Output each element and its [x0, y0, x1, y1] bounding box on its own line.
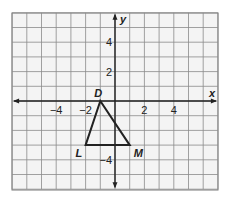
y-tick-label: −4 [99, 154, 112, 166]
y-tick-label: 4 [106, 36, 112, 48]
x-tick-label: −2 [79, 104, 92, 116]
vertex-label-D: D [94, 87, 102, 99]
x-tick-label: 2 [141, 104, 147, 116]
vertex-label-L: L [76, 147, 83, 159]
x-tick-label: 4 [171, 104, 177, 116]
x-axis-label: x [208, 87, 216, 99]
x-tick-label: −4 [50, 104, 63, 116]
y-tick-label: 2 [106, 66, 112, 78]
vertex-label-M: M [134, 147, 144, 159]
coordinate-plane: yx−4−22442−4DLM [0, 0, 225, 199]
y-axis-label: y [119, 13, 127, 25]
